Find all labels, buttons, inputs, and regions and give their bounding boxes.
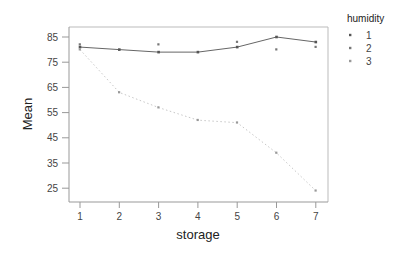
data-point [275, 152, 277, 154]
y-tick-label: 55 [47, 107, 59, 118]
x-tick-label: 7 [313, 211, 319, 222]
data-point [236, 41, 238, 43]
legend-title: humidity [347, 13, 384, 24]
x-tick-label: 6 [274, 211, 280, 222]
legend-item-label: 3 [366, 56, 372, 67]
y-tick-label: 75 [47, 57, 59, 68]
x-tick-label: 5 [234, 211, 240, 222]
series-1 [79, 36, 317, 54]
data-point [236, 46, 239, 49]
data-point [118, 48, 121, 51]
series-layer [79, 36, 317, 192]
x-axis-ticks: 1234567 [77, 202, 319, 222]
series-line [80, 37, 316, 52]
x-tick-label: 2 [117, 211, 123, 222]
data-point [157, 43, 159, 45]
data-point [79, 48, 81, 50]
y-tick-label: 35 [47, 158, 59, 169]
data-point [157, 51, 160, 54]
data-point [197, 119, 199, 121]
data-point [157, 106, 159, 108]
chart: 85756555453525 1234567 storage Mean humi… [0, 0, 402, 255]
legend-item-label: 1 [366, 30, 372, 41]
legend-marker-icon [349, 34, 351, 36]
legend-marker-icon [349, 60, 351, 62]
legend-item-label: 2 [366, 43, 372, 54]
data-point [315, 46, 317, 48]
data-point [118, 91, 120, 93]
x-tick-label: 3 [156, 211, 162, 222]
data-point [275, 48, 277, 50]
series-3 [79, 48, 317, 191]
x-tick-label: 4 [195, 211, 201, 222]
legend: humidity 123 [347, 13, 384, 67]
y-axis-title: Mean [20, 98, 35, 131]
data-point [315, 41, 318, 44]
x-tick-label: 1 [77, 211, 83, 222]
data-point [197, 51, 200, 54]
data-point [79, 43, 81, 45]
y-axis-ticks: 85756555453525 [47, 32, 69, 194]
data-point [275, 36, 278, 39]
y-tick-label: 45 [47, 132, 59, 143]
y-tick-label: 65 [47, 82, 59, 93]
legend-marker-icon [349, 47, 351, 49]
data-point [236, 121, 238, 123]
x-axis-title: storage [176, 227, 219, 242]
data-point [315, 189, 317, 191]
data-point [79, 46, 82, 49]
y-tick-label: 25 [47, 183, 59, 194]
y-tick-label: 85 [47, 32, 59, 43]
